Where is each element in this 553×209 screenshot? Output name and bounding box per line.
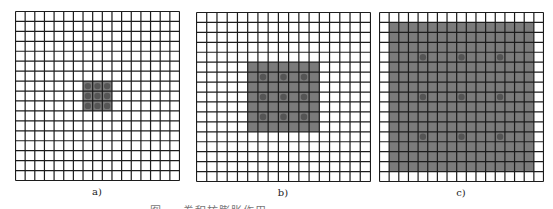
kernel-sample-dot [301, 74, 308, 81]
kernel-sample-dot [458, 134, 464, 140]
kernel-sample-dot [458, 94, 464, 100]
kernel-sample-dot [280, 94, 287, 101]
kernel-sample-dot [94, 83, 100, 89]
kernel-sample-dot [497, 94, 503, 100]
kernel-sample-dot [420, 94, 426, 100]
dilated-conv-grid-c [379, 12, 544, 182]
kernel-sample-dot [420, 134, 426, 140]
kernel-sample-dot [280, 114, 287, 121]
panel-label-b: b) [263, 187, 303, 198]
kernel-sample-dot [301, 114, 308, 121]
kernel-sample-dot [260, 74, 267, 81]
grid-svg-b [196, 12, 371, 182]
kernel-sample-dot [260, 114, 267, 121]
figure-caption: 图 — 卷积核膨胀作用 … [150, 202, 284, 209]
kernel-sample-dot [85, 83, 91, 89]
kernel-sample-dot [104, 93, 110, 99]
dilated-conv-grid-b [196, 12, 371, 182]
kernel-sample-dot [94, 93, 100, 99]
kernel-sample-dot [497, 54, 503, 60]
panel-label-a: a) [77, 186, 117, 197]
kernel-sample-dot [104, 103, 110, 109]
kernel-sample-dot [280, 74, 287, 81]
kernel-sample-dot [458, 54, 464, 60]
kernel-sample-dot [85, 93, 91, 99]
kernel-sample-dot [104, 83, 110, 89]
panel-b: b) [196, 12, 370, 201]
panel-c: c) [379, 12, 543, 201]
kernel-sample-dot [94, 103, 100, 109]
kernel-sample-dot [85, 103, 91, 109]
dilated-conv-grid-a [15, 11, 180, 181]
grid-svg-c [379, 12, 544, 182]
grid-svg-a [15, 11, 180, 181]
panel-a: a) [15, 11, 179, 200]
panel-label-c: c) [441, 187, 481, 198]
kernel-sample-dot [301, 94, 308, 101]
kernel-sample-dot [497, 134, 503, 140]
kernel-sample-dot [420, 54, 426, 60]
kernel-sample-dot [260, 94, 267, 101]
